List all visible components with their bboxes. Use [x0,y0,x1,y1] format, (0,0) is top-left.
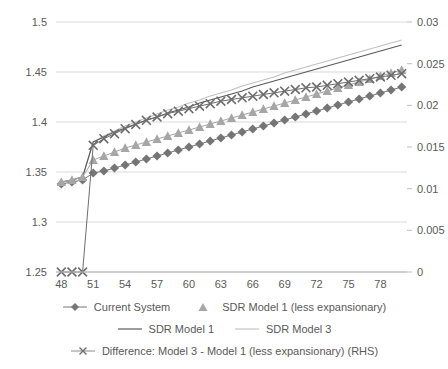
plot-area: 1.251.31.351.41.451.500.0050.010.0150.02… [0,0,448,295]
data-point-marker [227,130,236,139]
light-line-key [234,323,260,335]
data-point-marker [99,151,108,160]
y-axis-tick-label: 1.5 [32,16,47,28]
data-point-marker [216,133,225,142]
legend-row-2: SDR Model 1 SDR Model 3 [0,318,448,340]
data-point-marker [206,136,215,145]
chart-svg: 1.251.31.351.41.451.500.0050.010.0150.02… [0,0,448,295]
data-point-marker [78,172,87,181]
data-point-marker [386,85,395,94]
x-axis-tick-label: 66 [247,278,259,290]
data-point-marker [301,109,310,118]
x-axis-tick-label: 63 [215,278,227,290]
data-point-marker [142,116,151,125]
data-point-marker [206,99,215,108]
y-axis-tick-label: 1.45 [26,66,47,78]
x-axis-tick-label: 75 [342,278,354,290]
data-point-marker [110,163,119,172]
x-axis-tick-label: 72 [310,278,322,290]
data-point-marker [131,157,140,166]
y2-axis-tick-label: 0.005 [417,224,445,236]
diamond-marker-key [62,301,88,313]
legend-label: Difference: Model 3 - Model 1 (less expa… [102,345,378,357]
x-axis-tick-label: 69 [279,278,291,290]
data-point-marker [259,121,268,130]
data-point-marker [163,148,172,157]
data-point-marker [291,112,300,121]
data-point-marker [323,103,332,112]
solid-line-key [117,323,143,335]
legend-row-1: Current System SDR Model 1 (less expansi… [0,296,448,318]
series-sdr-model-1-less-expansionary [57,65,407,186]
data-point-marker [89,168,98,177]
data-point-marker [397,82,406,91]
data-point-marker [142,154,151,163]
data-point-marker [110,147,119,156]
data-point-marker [376,88,385,97]
chart-legend: Current System SDR Model 1 (less expansi… [0,296,448,369]
series-current-system [57,82,407,188]
y-axis-tick-label: 1.3 [32,216,47,228]
data-point-marker [312,106,321,115]
legend-label: SDR Model 3 [266,323,331,335]
x-axis-tick-label: 78 [374,278,386,290]
y2-axis-tick-label: 0.02 [417,99,438,111]
legend-label: SDR Model 1 [149,323,214,335]
data-point-marker [365,91,374,100]
y2-axis-tick-label: 0.03 [417,16,438,28]
legend-item-sdr-model-1-less-expansionary[interactable]: SDR Model 1 (less expansionary) [190,301,386,313]
data-point-marker [184,142,193,151]
data-point-marker [238,127,247,136]
legend-label: Current System [94,301,170,313]
data-point-marker [89,155,98,164]
y-axis-tick-label: 1.35 [26,166,47,178]
data-point-marker [355,94,364,103]
data-point-marker [195,139,204,148]
data-point-marker [248,124,257,133]
data-point-marker [185,104,194,113]
legend-item-sdr-model-1[interactable]: SDR Model 1 [117,323,214,335]
x-marker-key [70,345,96,357]
data-point-marker [344,97,353,106]
x-axis-tick-label: 48 [55,278,67,290]
x-axis-tick-label: 57 [151,278,163,290]
data-point-marker [121,160,130,169]
legend-item-current-system[interactable]: Current System [62,301,170,313]
triangle-marker-key [190,301,216,313]
y2-axis-tick-label: 0.01 [417,183,438,195]
chart-container: 1.251.31.351.41.451.500.0050.010.0150.02… [0,0,448,369]
y2-axis-tick-label: 0.015 [417,141,445,153]
legend-item-difference-model3-minus-model1[interactable]: Difference: Model 3 - Model 1 (less expa… [70,345,378,357]
data-point-marker [99,166,108,175]
legend-label: SDR Model 1 (less expansionary) [222,301,386,313]
y-axis-tick-label: 1.25 [26,266,47,278]
x-axis-tick-label: 51 [87,278,99,290]
y2-axis-tick-label: 0.025 [417,58,445,70]
series-sdr-model-3 [61,40,401,182]
y2-axis-tick-label: 0 [417,266,423,278]
x-axis-tick-label: 60 [183,278,195,290]
data-point-marker [269,118,278,127]
y-axis-tick-label: 1.4 [32,116,47,128]
series-line [61,40,401,182]
data-point-marker [280,115,289,124]
legend-item-sdr-model-3[interactable]: SDR Model 3 [234,323,331,335]
x-axis-tick-label: 54 [119,278,131,290]
legend-row-3: Difference: Model 3 - Model 1 (less expa… [0,340,448,362]
data-point-marker [333,100,342,109]
data-point-marker [174,145,183,154]
data-point-marker [152,151,161,160]
